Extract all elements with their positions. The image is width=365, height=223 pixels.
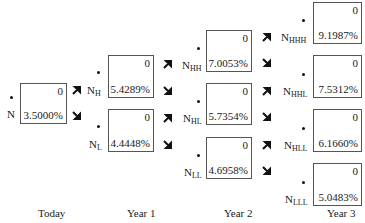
node-dot-N: [10, 96, 13, 99]
arrow-down-right-icon: [163, 140, 173, 150]
node-rate: 7.0053%: [209, 57, 248, 69]
node-box-NH: 0 5.4289%: [108, 55, 154, 98]
node-rate: 5.4289%: [111, 83, 150, 95]
node-dot-NHL: [197, 100, 200, 103]
node-rate: 4.4448%: [111, 137, 150, 149]
node-box-NLL: 0 4.6958%: [206, 137, 252, 179]
node-rate: 6.1660%: [319, 137, 358, 149]
node-value: 0: [353, 4, 359, 16]
period-label-year-3: Year 3: [327, 207, 356, 219]
period-label-year-1: Year 1: [127, 207, 156, 219]
node-value: 0: [145, 57, 151, 69]
node-value: 0: [353, 57, 359, 69]
node-box-NLLL: 0 5.0483%: [313, 163, 362, 206]
node-label-NHHL: NHHL: [283, 85, 307, 99]
node-label-NH: NH: [87, 84, 101, 98]
node-label-NHH: NHH: [182, 59, 202, 73]
period-label-year-2: Year 2: [224, 207, 253, 219]
node-label-NLLL: NLLL: [285, 193, 308, 207]
arrow-up-right-icon: [163, 59, 173, 69]
node-dot-NHH: [197, 47, 200, 50]
node-value: 0: [243, 139, 249, 151]
node-value: 0: [353, 111, 359, 123]
node-label-N: N: [7, 108, 15, 120]
node-rate: 3.5000%: [24, 109, 63, 121]
node-label-NL: NL: [89, 138, 102, 152]
node-label-NLL: NLL: [184, 166, 202, 180]
node-box-N: 0 3.5000%: [20, 83, 67, 124]
node-dot-NHHH: [302, 19, 305, 22]
node-rate: 5.7354%: [209, 110, 248, 122]
node-value: 0: [243, 85, 249, 97]
node-rate: 7.5312%: [319, 83, 358, 95]
arrow-down-right-icon: [163, 86, 173, 96]
node-value: 0: [58, 85, 64, 97]
arrow-up-right-icon: [72, 85, 82, 95]
arrow-down-right-icon: [262, 112, 272, 122]
node-value: 0: [353, 165, 359, 177]
node-box-NHL: 0 5.7354%: [206, 83, 252, 125]
node-rate: 4.6958%: [209, 164, 248, 176]
node-dot-NH: [97, 71, 100, 74]
node-label-NHHH: NHHH: [281, 31, 306, 45]
node-box-NHH: 0 7.0053%: [206, 30, 252, 72]
arrow-up-right-icon: [262, 86, 272, 96]
node-label-NHL: NHL: [183, 112, 202, 126]
arrow-up-right-icon: [163, 113, 173, 123]
node-rate: 5.0483%: [319, 191, 358, 203]
node-box-NHLL: 0 6.1660%: [313, 109, 362, 152]
period-label-today: Today: [38, 207, 65, 219]
node-dot-NL: [97, 125, 100, 128]
node-dot-NHLL: [302, 127, 305, 130]
arrow-down-right-icon: [262, 58, 272, 68]
node-dot-NLLL: [302, 181, 305, 184]
node-dot-NHHL: [302, 73, 305, 76]
node-box-NL: 0 4.4448%: [108, 109, 154, 152]
node-dot-NLL: [197, 154, 200, 157]
arrow-up-right-icon: [262, 32, 272, 42]
node-box-NHHH: 0 9.1987%: [313, 2, 362, 44]
arrow-down-right-icon: [262, 166, 272, 176]
node-value: 0: [145, 111, 151, 123]
node-value: 0: [243, 32, 249, 44]
arrow-up-right-icon: [262, 140, 272, 150]
arrow-down-right-icon: [72, 111, 82, 121]
node-box-NHHL: 0 7.5312%: [313, 55, 362, 98]
node-rate: 9.1987%: [319, 29, 358, 41]
node-label-NHLL: NHLL: [284, 139, 308, 153]
